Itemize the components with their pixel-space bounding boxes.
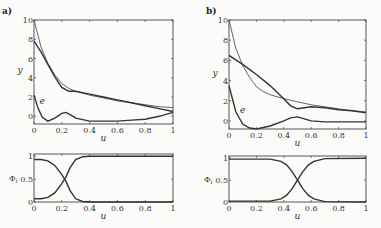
x-tick-label: 0.4	[277, 131, 290, 140]
series-line-e	[34, 95, 173, 121]
x-tick-label: 0.6	[305, 131, 318, 140]
y-tick-label: 4	[223, 77, 228, 86]
x-tick-label: 1	[363, 204, 368, 213]
series-line-approximation	[34, 41, 173, 111]
figure: 00.20.40.60.810246810uye00.20.40.60.8100…	[0, 0, 381, 228]
y-tick-label: 0	[223, 117, 228, 126]
annotation-e: e	[40, 96, 45, 106]
y-axis-label: y	[211, 68, 218, 78]
x-tick-label: 0.4	[277, 204, 290, 213]
y-tick-label: 8	[28, 35, 33, 44]
series-line-Φ2	[34, 156, 173, 199]
y-tick-label: 0.5	[20, 175, 33, 184]
panel-label-b: b)	[206, 6, 217, 16]
y-axis-label: y	[16, 65, 23, 75]
x-axis-label: u	[101, 133, 107, 143]
chart-panel-1: 00.20.40.60.810246810uye	[16, 16, 175, 143]
y-tick-label: 10	[218, 16, 228, 25]
y-tick-label: 4	[28, 74, 33, 83]
y-tick-label: 1	[28, 152, 33, 161]
axes-frame	[34, 20, 173, 124]
series-line-target	[34, 20, 173, 108]
x-tick-label: 0.8	[332, 204, 345, 213]
x-tick-label: 0.6	[111, 204, 124, 213]
x-tick-label: 0.2	[55, 204, 68, 213]
x-tick-label: 0.2	[250, 131, 263, 140]
x-tick-label: 0	[31, 126, 36, 135]
x-axis-label: u	[295, 211, 301, 221]
series-line-approximation	[229, 55, 366, 113]
x-tick-label: 0.8	[332, 131, 345, 140]
x-tick-label: 0.2	[250, 204, 263, 213]
y-tick-label: 0.5	[215, 176, 228, 185]
panel-label-a: a)	[2, 6, 12, 16]
x-axis-label: u	[295, 138, 301, 148]
x-tick-label: 0.8	[139, 126, 152, 135]
x-tick-label: 0.4	[83, 204, 96, 213]
series-line-target	[229, 20, 366, 112]
x-tick-label: 0.4	[83, 126, 96, 135]
y-tick-label: 6	[223, 56, 228, 65]
y-tick-label: 1	[223, 154, 228, 163]
axes-frame	[229, 20, 366, 129]
x-tick-label: 1	[170, 204, 175, 213]
y-axis-label: Φi	[204, 175, 213, 185]
x-tick-label: 0.2	[55, 126, 68, 135]
y-tick-label: 2	[28, 93, 33, 102]
y-tick-label: 0	[223, 198, 228, 207]
annotation-e: e	[240, 105, 245, 115]
series-line-Φ2	[229, 158, 366, 201]
x-tick-label: 1	[363, 131, 368, 140]
x-axis-label: u	[101, 211, 107, 221]
y-tick-label: 0	[28, 112, 33, 121]
x-tick-label: 0.6	[111, 126, 124, 135]
x-tick-label: 0.6	[305, 204, 318, 213]
series-line-Φ1	[34, 160, 173, 203]
chart-panel-3: 00.20.40.60.810246810uye	[211, 16, 368, 148]
y-axis-label: Φi	[9, 174, 18, 184]
y-tick-label: 6	[28, 55, 33, 64]
y-tick-label: 0	[28, 198, 33, 207]
y-tick-label: 2	[223, 97, 228, 106]
x-tick-label: 0.8	[139, 204, 152, 213]
y-tick-label: 10	[23, 16, 33, 25]
series-line-e	[229, 86, 366, 129]
y-tick-label: 8	[223, 36, 228, 45]
chart-panel-2: 00.20.40.60.8100.51uΦi	[9, 152, 176, 221]
x-tick-label: 1	[170, 126, 175, 135]
chart-panel-4: 00.20.40.60.8100.51uΦi	[204, 154, 369, 221]
x-tick-label: 0	[226, 131, 231, 140]
axes-frame	[34, 154, 173, 202]
